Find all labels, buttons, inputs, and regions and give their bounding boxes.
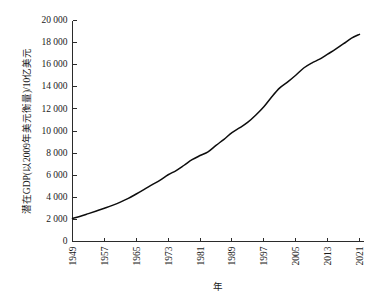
x-tick-label: 1965 xyxy=(132,246,142,265)
y-tick-label: 12 000 xyxy=(41,104,67,114)
y-tick-label: 6 000 xyxy=(46,170,68,180)
y-tick-label: 16 000 xyxy=(41,59,67,69)
x-tick-label: 2021 xyxy=(355,246,365,265)
y-tick-label: 10 000 xyxy=(41,126,67,136)
potential-gdp-chart-figure: 02 0004 0006 0008 00010 00012 00014 0001… xyxy=(0,0,380,299)
x-tick-label: 1973 xyxy=(164,246,174,265)
y-tick-label: 0 xyxy=(63,236,68,246)
x-tick-label: 1997 xyxy=(259,246,269,265)
y-axis-title: 潜在GDP(以2009年美元衡量)/10亿美元 xyxy=(21,48,33,214)
x-tick-label: 1989 xyxy=(227,246,237,265)
x-axis-title: 年 xyxy=(213,281,223,292)
x-tick-label: 1949 xyxy=(68,246,78,265)
y-tick-label: 18 000 xyxy=(41,37,67,47)
y-tick-label: 14 000 xyxy=(41,81,67,91)
y-axis-ticks xyxy=(73,21,77,242)
x-tick-label: 2005 xyxy=(291,246,301,265)
y-tick-label: 20 000 xyxy=(41,15,67,25)
x-tick-label: 1981 xyxy=(196,246,206,265)
potential-gdp-line xyxy=(73,34,360,218)
x-axis-tick-labels: 1949195719651973198119891997200520132021 xyxy=(68,246,365,265)
x-tick-label: 1957 xyxy=(100,246,110,265)
x-tick-label: 2013 xyxy=(323,246,333,265)
chart-canvas: 02 0004 0006 0008 00010 00012 00014 0001… xyxy=(0,0,380,299)
x-axis-ticks xyxy=(73,238,360,242)
y-tick-label: 8 000 xyxy=(46,148,68,158)
y-tick-label: 4 000 xyxy=(46,192,68,202)
y-tick-label: 2 000 xyxy=(46,214,68,224)
y-axis-tick-labels: 02 0004 0006 0008 00010 00012 00014 0001… xyxy=(41,15,67,246)
